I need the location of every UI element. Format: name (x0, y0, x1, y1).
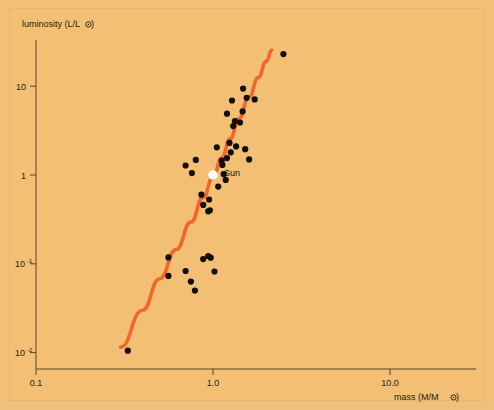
x-tick-label: 10.0 (381, 378, 399, 388)
data-point (208, 255, 214, 261)
data-point (240, 86, 246, 92)
data-point (224, 155, 230, 161)
data-point (224, 111, 230, 117)
data-point (244, 95, 250, 101)
data-point (198, 192, 204, 198)
data-point (125, 348, 131, 354)
data-point (233, 143, 239, 149)
data-point (215, 184, 221, 190)
data-point (240, 108, 246, 114)
data-point (229, 97, 235, 103)
figure-container: 10110-110-2 0.11.010.0 luminosity (L/L )… (0, 0, 494, 410)
x-axis-title-close-paren: ) (456, 392, 459, 402)
x-tick-label: 0.1 (30, 378, 43, 388)
y-tick-exponent: -2 (27, 347, 33, 353)
data-point (228, 149, 234, 155)
data-point (188, 279, 194, 285)
sun-marker (208, 170, 217, 179)
axes-group (36, 40, 476, 369)
data-point (237, 119, 243, 125)
data-point (242, 146, 248, 152)
x-axis-title: mass (M/M (394, 392, 439, 402)
y-axis-title: luminosity (L/L (22, 19, 80, 29)
scatter-points-group (125, 51, 287, 354)
data-point (183, 268, 189, 274)
data-point (183, 162, 189, 168)
data-point (223, 177, 229, 183)
y-tick-exponent: -1 (27, 258, 33, 264)
data-point (246, 156, 252, 162)
data-point (193, 157, 199, 163)
data-point (192, 287, 198, 293)
x-tick-label: 1.0 (207, 378, 220, 388)
data-point (165, 254, 171, 260)
data-point (280, 51, 286, 57)
y-axis-ticks: 10110-110-2 (15, 82, 36, 358)
data-point (200, 202, 206, 208)
x-axis-ticks: 0.11.010.0 (30, 369, 399, 388)
y-tick-label: 10 (16, 82, 26, 92)
chart-canvas: 10110-110-2 0.11.010.0 luminosity (L/L )… (0, 0, 494, 410)
y-tick-label: 10 (15, 259, 25, 269)
data-point (211, 268, 217, 274)
data-point (189, 170, 195, 176)
y-axis-title-close-paren: ) (91, 19, 94, 29)
data-point (214, 144, 220, 150)
data-point (165, 273, 171, 279)
sun-label: Sun (224, 168, 240, 178)
data-point (206, 196, 212, 202)
mass-luminosity-fit-curve (121, 50, 272, 347)
data-point (207, 207, 213, 213)
y-tick-label: 10 (15, 348, 25, 358)
data-point (252, 96, 258, 102)
y-tick-label: 1 (21, 171, 26, 181)
data-point (226, 140, 232, 146)
